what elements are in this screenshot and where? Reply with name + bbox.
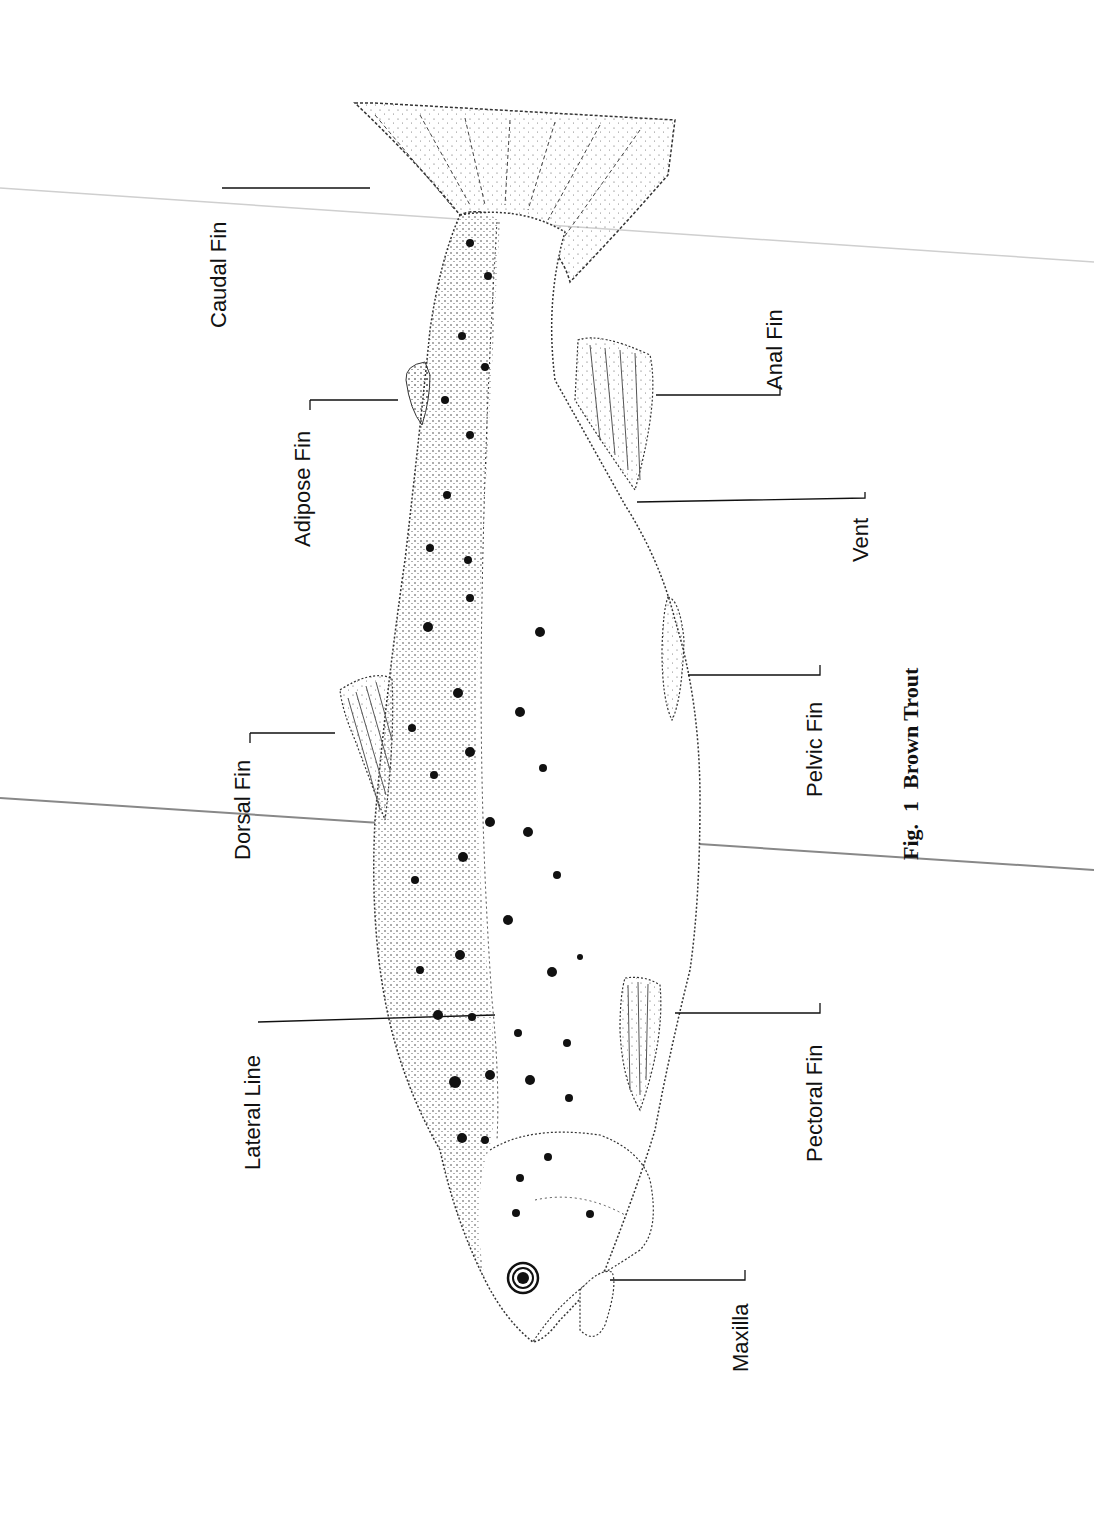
label-anal-fin: Anal Fin xyxy=(762,309,788,390)
fish-diagram xyxy=(0,0,1094,1533)
caption-number: 1 xyxy=(898,801,923,812)
figure-caption: Fig.1Brown Trout xyxy=(898,668,924,860)
label-pelvic-fin: Pelvic Fin xyxy=(802,702,828,797)
label-pectoral-fin: Pectoral Fin xyxy=(802,1045,828,1162)
leader-vent xyxy=(637,492,865,502)
label-caudal-fin: Caudal Fin xyxy=(206,222,232,328)
label-maxilla: Maxilla xyxy=(728,1304,754,1372)
caption-title: Brown Trout xyxy=(898,668,923,789)
label-dorsal-fin: Dorsal Fin xyxy=(230,760,256,860)
leader-adipose-fin xyxy=(310,400,398,410)
dorsal-fin xyxy=(340,676,393,820)
eye xyxy=(508,1263,538,1293)
caption-prefix: Fig. xyxy=(898,824,923,860)
label-vent: Vent xyxy=(848,518,874,562)
leader-pelvic-fin xyxy=(688,665,820,675)
label-adipose-fin: Adipose Fin xyxy=(290,431,316,547)
leader-pectoral-fin xyxy=(675,1003,820,1013)
leader-dorsal-fin xyxy=(250,733,335,743)
leader-maxilla xyxy=(610,1270,745,1280)
label-lateral-line: Lateral Line xyxy=(240,1055,266,1170)
